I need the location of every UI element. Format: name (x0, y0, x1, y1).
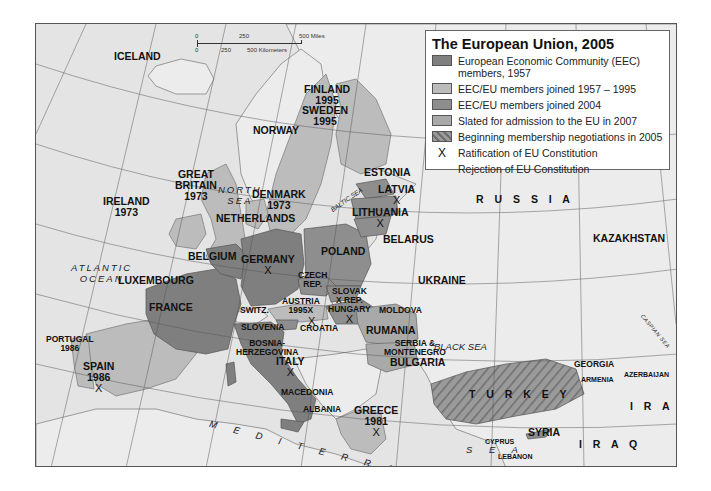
legend-label-1957-1995: EEC/EU members joined 1957 – 1995 (458, 83, 636, 95)
label-france: FRANCE (149, 302, 193, 313)
scale-miles-250: 250 (239, 33, 249, 39)
label-moldova: MOLDOVA (379, 306, 422, 315)
label-north-sea: NORTH SEA (218, 184, 262, 206)
scale-km-500: 500 Kilometers (247, 47, 287, 53)
legend-label-2004: EEC/EU members joined 2004 (458, 99, 601, 111)
label-lithuania: LITHUANIA X (352, 207, 409, 229)
scale-tick (197, 40, 198, 47)
legend-label-eec-1957: European Economic Community (EEC) member… (458, 55, 640, 79)
legend-item-2004: EEC/EU members joined 2004 (432, 99, 663, 111)
legend-item-ratification: X Ratification of EU Constitution (432, 147, 663, 159)
label-ireland: IRELAND 1973 (103, 196, 150, 218)
label-greece: GREECE 1981 X (354, 405, 398, 438)
label-russia: R U S S I A (476, 194, 574, 205)
label-great-britain: GREAT BRITAIN 1973 (175, 169, 217, 202)
label-iraq: I R A Q (579, 439, 641, 450)
label-iran: I R A N (630, 401, 677, 412)
latvia-x-mark: X (378, 195, 415, 206)
label-syria: SYRIA (528, 427, 560, 438)
label-mediterranean-sea-tail: S E A (466, 444, 525, 455)
scale-bar: 0 250 500 Miles 0 250 500 Kilometers (195, 33, 325, 63)
scale-miles-0: 0 (195, 33, 198, 39)
label-kazakhstan: KAZAKHSTAN (593, 233, 665, 244)
label-armenia: ARMENIA (581, 376, 614, 384)
label-estonia: ESTONIA (364, 167, 410, 178)
swatch-2004 (432, 99, 452, 110)
label-albania: ALBANIA (303, 405, 341, 414)
label-italy: ITALY X (276, 356, 305, 378)
swatch-2007 (432, 115, 452, 126)
north-sea-line1: NORTH (218, 184, 262, 195)
scale-km-250: 250 (221, 47, 231, 53)
legend-label-ratification: Ratification of EU Constitution (458, 147, 597, 159)
sweden-year: 1995 (302, 116, 348, 127)
legend-label-2005: Beginning membership negotiations in 200… (458, 131, 662, 143)
label-sweden: SWEDEN 1995 (302, 105, 348, 127)
label-rumania: RUMANIA (366, 325, 416, 336)
label-austria: AUSTRIA 1995X (282, 297, 320, 315)
scale-miles-500: 500 Miles (299, 33, 325, 39)
legend-item-rejection: Rejection of EU Constitution (432, 163, 663, 175)
scale-km-0: 0 (195, 47, 198, 53)
label-slovenia: SLOVENIA (241, 323, 284, 332)
atlantic-line2: OCEAN (71, 273, 132, 284)
label-norway: NORWAY (253, 125, 299, 136)
label-switzerland: SWITZ. (240, 306, 269, 315)
scale-line (197, 43, 301, 44)
spain-x-mark: X (83, 383, 114, 394)
swatch-1957-1995 (432, 83, 452, 94)
atlantic-line1: ATLANTIC (71, 262, 132, 273)
label-azerbaijan: AZERBAIJAN (624, 371, 669, 379)
swatch-hatched (432, 131, 452, 142)
scale-tick (301, 40, 302, 44)
ireland-year: 1973 (103, 207, 150, 218)
legend-label-rejection: Rejection of EU Constitution (458, 163, 589, 175)
legend-item-2005-negotiations: Beginning membership negotiations in 200… (432, 131, 663, 143)
italy-x-mark: X (276, 367, 305, 378)
legend-item-1957-1995: EEC/EU members joined 1957 – 1995 (432, 83, 663, 95)
label-poland: POLAND (321, 246, 365, 257)
label-spain: SPAIN 1986 X (83, 361, 114, 394)
label-atlantic-ocean: ATLANTIC OCEAN (71, 262, 132, 284)
label-netherlands: NETHERLANDS (216, 213, 295, 224)
label-belarus: BELARUS (383, 234, 434, 245)
label-belgium: BELGIUM (188, 251, 236, 262)
label-bulgaria: BULGARIA (390, 357, 445, 368)
austria-year: 1995X (282, 306, 320, 315)
label-hungary: HUNGARY X (328, 305, 371, 325)
greece-x-mark: X (354, 427, 398, 438)
label-macedonia: MACEDONIA (281, 388, 333, 397)
legend-item-eec-1957: European Economic Community (EEC) member… (432, 55, 663, 79)
label-croatia: CROATIA (300, 324, 338, 333)
label-iceland: ICELAND (114, 51, 161, 62)
legend-item-2007: Slated for admission to the EU in 2007 (432, 115, 663, 127)
label-georgia: GEORGIA (574, 360, 614, 369)
label-germany: GERMANY X (241, 254, 295, 276)
legend-label-line2: members, 1957 (458, 67, 640, 79)
legend: The European Union, 2005 European Econom… (425, 30, 670, 170)
swatch-eec-1957 (432, 55, 452, 66)
legend-title: The European Union, 2005 (432, 36, 663, 52)
legend-label-line1: European Economic Community (EEC) (458, 55, 640, 67)
label-finland: FINLAND 1995 (304, 84, 350, 106)
legend-label-2007: Slated for admission to the EU in 2007 (458, 115, 637, 127)
gb-year: 1973 (175, 191, 217, 202)
north-sea-line2: SEA (218, 195, 262, 206)
label-ukraine: UKRAINE (418, 275, 466, 286)
label-turkey: T U R K E Y (469, 389, 571, 400)
label-czech-rep: CZECH REP. (298, 271, 327, 289)
lithuania-x-mark: X (352, 218, 409, 229)
germany-x-mark: X (241, 265, 295, 276)
czech-name2: REP. (298, 280, 327, 289)
label-slovak-rep: SLOVAK X REP. (332, 287, 367, 305)
label-portugal: PORTUGAL 1986 (46, 335, 94, 353)
label-black-sea: BLACK SEA (434, 341, 487, 352)
portugal-year: 1986 (46, 344, 94, 353)
x-mark-icon: X (432, 147, 452, 159)
label-latvia: LATVIA X (378, 184, 415, 206)
